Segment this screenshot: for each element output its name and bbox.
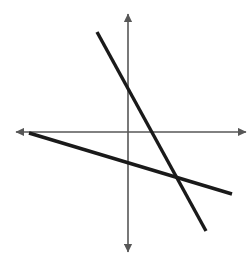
graph-canvas — [0, 0, 252, 262]
figure-background — [0, 0, 252, 262]
coordinate-plane-figure — [0, 0, 252, 262]
